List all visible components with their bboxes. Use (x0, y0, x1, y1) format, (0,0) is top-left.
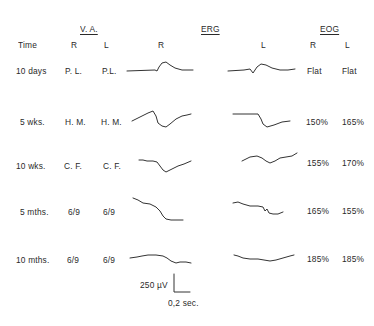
erg-right-trace (132, 111, 191, 127)
erg-right-trace (130, 255, 191, 263)
erg-left-trace (228, 64, 295, 73)
erg-traces (0, 0, 374, 326)
scale-voltage-label: 250 µV (140, 279, 168, 290)
erg-left-trace (233, 202, 283, 214)
erg-right-trace (133, 198, 183, 220)
erg-right-trace (127, 62, 193, 71)
scale-bar (174, 274, 190, 292)
erg-left-trace (234, 255, 294, 261)
erg-left-trace (233, 114, 290, 127)
erg-right-trace (139, 160, 191, 172)
scale-time-label: 0,2 sec. (168, 297, 199, 308)
erg-left-trace (242, 153, 297, 163)
